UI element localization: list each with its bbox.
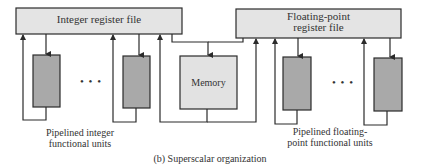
fp-unit-2	[374, 58, 402, 111]
fp-register-file-label: Floating-point register file	[236, 11, 401, 33]
integer-unit-2	[123, 56, 150, 108]
memory-label: Memory	[180, 77, 237, 88]
caption: (b) Superscalar organization	[130, 153, 290, 164]
integer-ellipsis: • • •	[66, 76, 116, 87]
fp-units-line1: Pipelined floating-	[275, 126, 385, 137]
integer-units-line2: functional units	[30, 138, 130, 149]
fp-units-label: Pipelined floating- point functional uni…	[275, 126, 385, 148]
integer-register-file-label: Integer register file	[16, 14, 182, 25]
fp-ellipsis: • • •	[318, 77, 368, 88]
integer-units-line1: Pipelined integer	[30, 127, 130, 138]
fp-register-file-line2: register file	[236, 22, 401, 33]
integer-unit-1	[33, 55, 60, 107]
fp-unit-1	[283, 57, 311, 110]
fp-units-line2: point functional units	[275, 137, 385, 148]
integer-units-label: Pipelined integer functional units	[30, 127, 130, 149]
